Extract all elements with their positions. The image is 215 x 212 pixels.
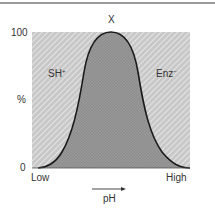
region-label-sh-sup: + <box>62 68 66 74</box>
y-tick-0: 0 <box>20 163 26 173</box>
region-label-enz-base: Enz <box>156 68 173 79</box>
region-label-enz-sup: − <box>173 68 177 74</box>
ph-direction-arrow-icon <box>92 187 126 191</box>
x-axis-label: pH <box>103 194 116 204</box>
y-axis-label: % <box>17 95 26 105</box>
x-tick-high: High <box>166 173 187 183</box>
x-tick-low: Low <box>31 173 49 183</box>
peak-label: X <box>108 15 115 25</box>
region-label-sh-plus: SH+ <box>48 69 65 79</box>
y-tick-100: 100 <box>11 28 28 38</box>
region-label-enz-minus: Enz− <box>156 69 177 79</box>
region-label-sh-base: SH <box>48 68 62 79</box>
